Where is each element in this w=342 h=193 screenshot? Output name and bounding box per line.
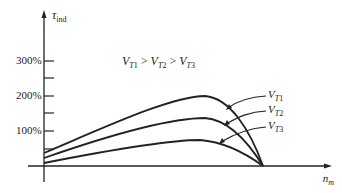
x-axis-arrow-icon [324,164,332,169]
curve-vt2 [44,118,263,166]
y-axis-label: τind [52,8,67,24]
y-ticks [44,61,54,149]
y-axis-arrow-icon [42,10,47,18]
torque-speed-chart [0,0,342,193]
voltage-relation-annotation: VT1 > VT2 > VT3 [122,54,195,70]
legend-vt1: VT1 [268,88,283,103]
legend-vt3: VT3 [268,119,283,134]
curve-vt3 [44,140,263,166]
legend-vt2: VT2 [268,103,283,118]
x-axis-label: nm [323,172,334,187]
tick-100: 100% [16,124,42,136]
tick-200: 200% [16,89,42,101]
tick-300: 300% [16,54,42,66]
leader-lines [221,96,266,142]
